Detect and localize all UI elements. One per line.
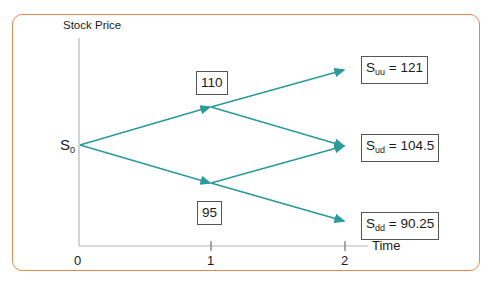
root-symbol: S <box>60 136 70 153</box>
root-node-label: S0 <box>60 136 75 155</box>
node-dd-equals: = <box>385 216 400 231</box>
node-uu-equals: = <box>385 60 400 75</box>
node-uu: Suu = 121 <box>361 56 428 84</box>
node-ud-equals: = <box>385 138 400 153</box>
node-uu-symbol: S <box>366 60 375 75</box>
node-dd-value: 90.25 <box>400 216 434 231</box>
branch-down-ud <box>211 146 344 183</box>
node-ud: Sud = 104.5 <box>361 134 439 162</box>
x-axis-label: Time <box>372 238 400 253</box>
x-tick-label-2: 2 <box>341 253 348 268</box>
branch-up-uu <box>211 70 344 107</box>
node-dd-subscript: dd <box>375 223 385 233</box>
node-ud-subscript: ud <box>375 145 385 155</box>
node-down: 95 <box>197 201 222 225</box>
node-uu-value: 121 <box>400 60 423 75</box>
branch-s0-up <box>80 107 210 145</box>
node-dd-symbol: S <box>366 216 375 231</box>
branch-s0-down <box>80 145 210 183</box>
x-tick-label-0: 0 <box>74 253 81 268</box>
node-uu-subscript: uu <box>375 67 385 77</box>
node-dd: Sdd = 90.25 <box>361 212 439 240</box>
x-tick-label-1: 1 <box>207 253 214 268</box>
node-up: 110 <box>196 71 228 95</box>
branch-down-dd <box>211 183 344 221</box>
node-down-value: 95 <box>202 205 217 220</box>
node-up-value: 110 <box>201 75 223 90</box>
root-subscript: 0 <box>70 145 75 155</box>
node-ud-value: 104.5 <box>400 138 434 153</box>
node-ud-symbol: S <box>366 138 375 153</box>
y-axis-label: Stock Price <box>63 19 121 31</box>
branch-up-ud <box>211 107 344 146</box>
